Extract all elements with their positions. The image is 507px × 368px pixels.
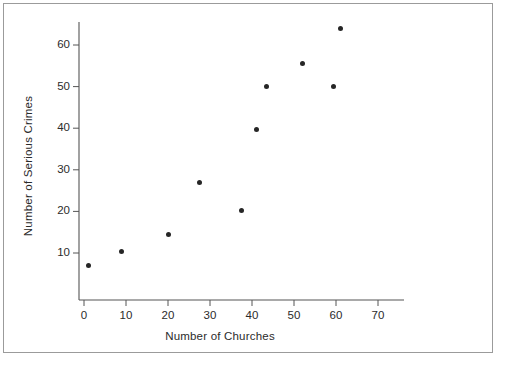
x-tick-label: 20 (155, 309, 181, 321)
y-tick-label: 20 (44, 204, 70, 216)
x-tick-label: 10 (113, 309, 139, 321)
axis-lines (79, 22, 404, 300)
x-tick-label: 0 (71, 309, 97, 321)
y-tick-label: 60 (44, 38, 70, 50)
y-tick-label: 50 (44, 80, 70, 92)
x-tick-label: 30 (197, 309, 223, 321)
y-tick-label: 10 (44, 246, 70, 258)
data-point (86, 263, 91, 268)
data-point (254, 127, 259, 132)
y-tick-label: 40 (44, 121, 70, 133)
data-point (239, 208, 244, 213)
data-point (166, 232, 171, 237)
y-tick-label: 30 (44, 163, 70, 175)
x-tick-label: 50 (281, 309, 307, 321)
data-point (338, 26, 343, 31)
data-point (119, 249, 124, 254)
x-tick-label: 40 (239, 309, 265, 321)
data-point (300, 61, 305, 66)
x-axis-title: Number of Churches (0, 330, 440, 342)
scatter-plot: 010203040506070 102030405060 Number of C… (0, 0, 507, 368)
x-tick-label: 70 (365, 309, 391, 321)
data-point (331, 84, 336, 89)
data-point (197, 180, 202, 185)
x-tick-label: 60 (323, 309, 349, 321)
y-axis-title: Number of Serious Crimes (22, 66, 34, 266)
data-point (264, 84, 269, 89)
